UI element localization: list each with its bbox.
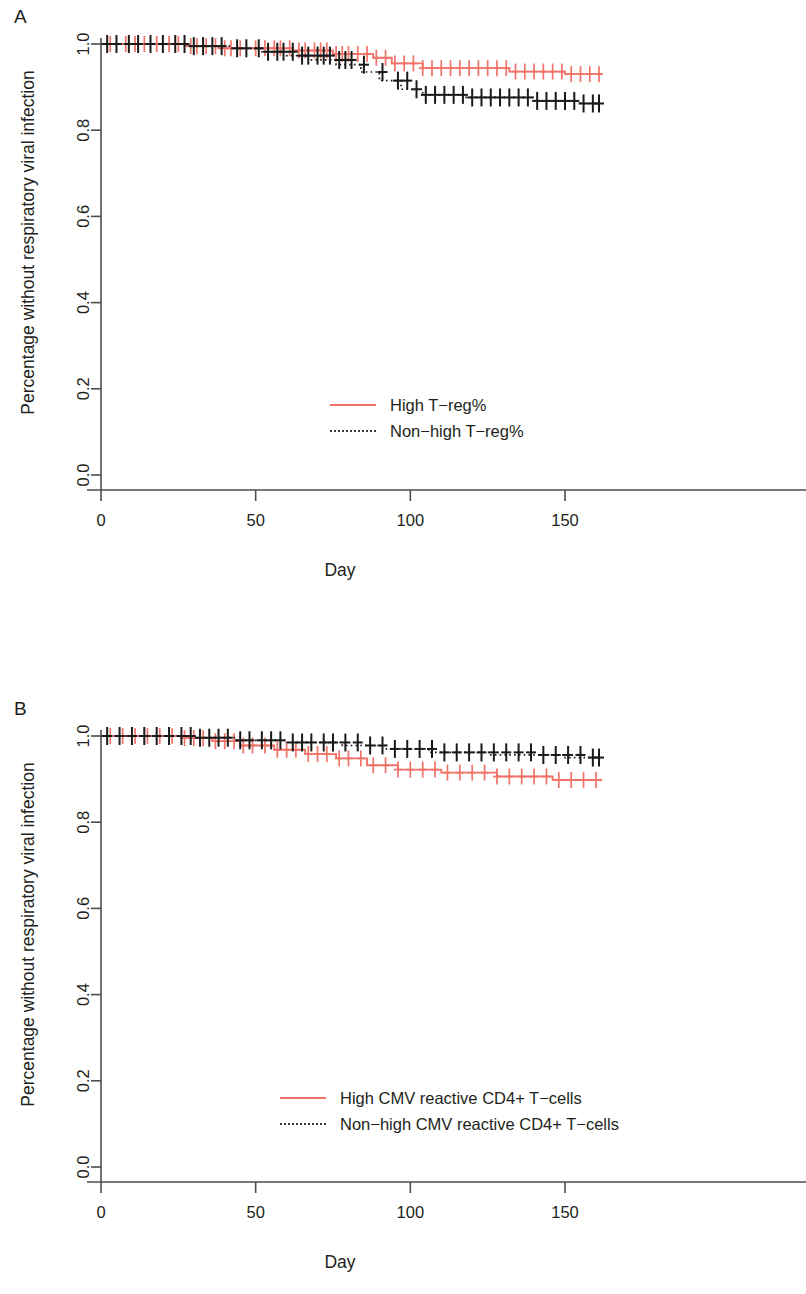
y-tick-label: 0.0 [74,1156,92,1179]
panel-b-plot: 0.00.20.40.60.81.0050100150 [0,692,806,1294]
panel-a-x-axis-label: Day [0,560,680,581]
y-tick-label: 0.6 [74,897,92,920]
x-tick-label: 150 [551,1203,579,1221]
legend-item-0: High CMV reactive CD4+ T−cells [280,1085,619,1111]
x-tick-label: 150 [551,511,579,529]
x-tick-label: 0 [96,511,105,529]
y-tick-label: 1.0 [74,725,92,748]
y-tick-label: 0.0 [74,464,92,487]
figure-canvas: A Percentage without respiratory viral i… [0,0,806,1294]
legend-item-0: High T−reg% [330,392,524,418]
series-line-1 [101,736,602,758]
y-tick-label: 0.6 [74,205,92,228]
y-tick-label: 1.0 [74,33,92,56]
panel-a: A Percentage without respiratory viral i… [0,0,806,640]
legend-item-label: Non−high CMV reactive CD4+ T−cells [340,1115,619,1134]
y-tick-label: 0.4 [74,983,92,1006]
panel-b-x-axis-label: Day [0,1252,680,1273]
x-tick-label: 100 [397,1203,425,1221]
y-tick-label: 0.8 [74,119,92,142]
censor-marks-1 [102,35,604,112]
legend-solid-line-icon [280,1097,326,1099]
legend-dotted-line-icon [330,430,376,432]
censor-marks-1 [102,727,604,767]
x-tick-label: 50 [246,511,264,529]
y-tick-label: 0.8 [74,811,92,834]
y-tick-label: 0.4 [74,291,92,314]
legend-item-label: High T−reg% [390,396,486,415]
panel-b-legend: High CMV reactive CD4+ T−cellsNon−high C… [280,1085,619,1137]
x-tick-label: 50 [246,1203,264,1221]
legend-solid-line-icon [330,404,376,406]
panel-a-legend: High T−reg%Non−high T−reg% [330,392,524,444]
legend-item-label: High CMV reactive CD4+ T−cells [340,1089,582,1108]
legend-dotted-line-icon [280,1123,326,1125]
x-tick-label: 100 [397,511,425,529]
y-tick-label: 0.2 [74,1069,92,1092]
y-tick-label: 0.2 [74,377,92,400]
panel-a-plot: 0.00.20.40.60.81.0050100150 [0,0,806,640]
panel-b: B Percentage without respiratory viral i… [0,692,806,1294]
x-tick-label: 0 [96,1203,105,1221]
legend-item-label: Non−high T−reg% [390,422,524,441]
legend-item-1: Non−high CMV reactive CD4+ T−cells [280,1111,619,1137]
legend-item-1: Non−high T−reg% [330,418,524,444]
